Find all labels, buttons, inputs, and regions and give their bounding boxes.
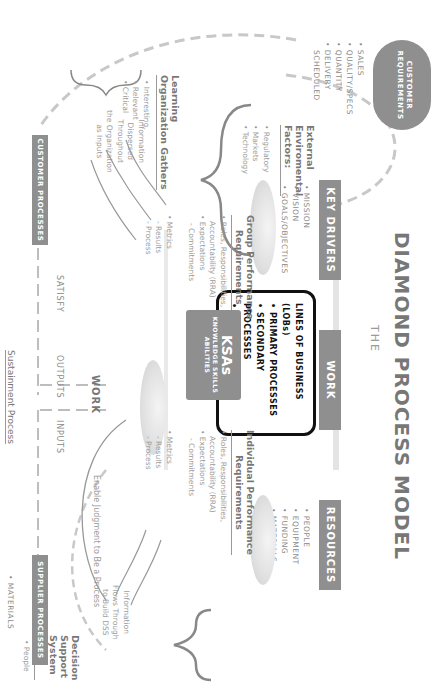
diamond-process-diagram: THE DIAMOND PROCESS MODEL CUSTOMER REQUI… [0, 0, 436, 697]
group-metrics-list: • Metrics - Results - Process [143, 215, 175, 255]
group-performance: Group Performance Requirements [228, 215, 256, 319]
brace-dss [174, 610, 211, 680]
work-header: WORK [319, 330, 341, 430]
group-performance-list: • Roles, Responsibilities, Accountabilit… [186, 215, 228, 307]
learning-org-heading: Learning Organization Gathers [156, 75, 181, 190]
outputs-label: OUTPUTS [55, 355, 64, 398]
dss-info: Information Flows Through to Build DSS [100, 585, 132, 640]
dss-list: • People [21, 640, 32, 672]
sustainment-process-label: Sustainment Process [5, 350, 16, 444]
supplier-materials: • MATERIALS [5, 575, 16, 629]
ksas-box: KSAs KNOWLEDGE SKILLS ABILITIES [186, 310, 241, 400]
customer-processes-box: CUSTOMER PROCESSES [32, 135, 48, 245]
external-factors-heading: External Enviromental Factors: [280, 125, 316, 196]
external-factors-list: • Regulatory • Markets • Technology [240, 125, 272, 174]
cloud-label-line1: CUSTOMER [404, 40, 413, 130]
supplier-processes-box: SUPPLIER PROCESSES [32, 555, 48, 665]
customer-requirements-list: • SALES • QUALITY/SPECS • QUANTITY • DEL… [311, 42, 366, 115]
learning-org-info: Information Dispersed Throughout the Org… [94, 110, 147, 173]
work-arrow [82, 420, 126, 600]
cloud-label-line2: REQUIREMENTS [395, 40, 404, 130]
work-flow-label: WORK [90, 375, 101, 414]
title-prefix: THE [368, 325, 381, 353]
individual-performance-list: • Roles, Responsibilities, Accountabilit… [186, 430, 228, 522]
page-title: DIAMOND PROCESS MODEL [390, 232, 414, 560]
resources-header: RESOURCES [319, 500, 341, 590]
inputs-label: INPUTS [55, 420, 64, 454]
individual-performance: Individual Performance Requirements [228, 430, 256, 555]
key-drivers-list: • MISSION • VISION • GOALS/OBJECTIVES [279, 185, 312, 274]
enable-judgment-label: Enable Judgment to Be a Process [91, 475, 102, 607]
satisfy-label: SATISFY [55, 275, 64, 313]
key-drivers-header: KEY DRIVERS [319, 180, 341, 280]
customer-requirements-cloud: CUSTOMER REQUIREMENTS [373, 40, 431, 130]
individual-metrics-list: • Metrics - Results - Process [143, 430, 175, 470]
external-factors: External Enviromental Factors: [277, 125, 316, 196]
